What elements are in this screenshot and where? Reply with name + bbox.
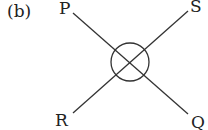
crossing-lines-diagram — [0, 0, 208, 130]
line-s-to-r — [73, 11, 188, 113]
line-p-to-q — [73, 13, 188, 114]
